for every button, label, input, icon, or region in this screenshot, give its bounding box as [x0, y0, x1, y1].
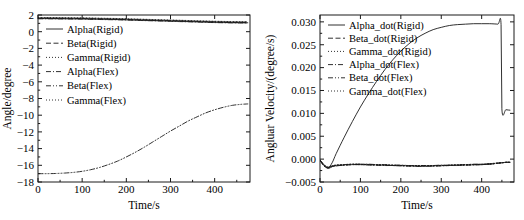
legend: Alpha_dot(Rigid)Beta_dot(Rigid)Gamma_dot…: [328, 20, 432, 98]
series-line-gamma-dotflex: [320, 161, 510, 168]
legend-label-1: Alpha(Rigid): [67, 24, 123, 36]
y-tick-label: 0.025: [291, 39, 316, 51]
series-line-beta-dotflex: [320, 160, 510, 167]
y-tick-label: 0.000: [291, 153, 316, 165]
legend-label-5: Beta_dot(Flex): [349, 72, 413, 84]
y-tick-label: 0.020: [291, 61, 316, 73]
y-tick-label: −4: [22, 59, 34, 71]
legend-label-1: Alpha_dot(Rigid): [349, 20, 424, 32]
y-tick-label: −12: [17, 126, 34, 138]
x-tick-label: 400: [473, 183, 490, 195]
x-tick-label: 100: [352, 183, 369, 195]
legend-label-5: Beta(Flex): [67, 80, 112, 92]
legend-label-3: Gamma(Rigid): [67, 52, 131, 64]
legend-label-2: Beta(Rigid): [67, 38, 117, 50]
y-tick-label: 0: [29, 26, 35, 38]
y-axis-title: Angluar Velocity/(degree/s): [264, 34, 277, 162]
y-tick-label: −2: [22, 42, 34, 54]
y-tick-label: 2: [29, 9, 35, 21]
figure-root: 010020030040020−2−4−6−8−10−12−14−16−18Ti…: [0, 0, 524, 220]
x-tick-label: 200: [393, 183, 410, 195]
x-axis-title: Time/s: [401, 199, 433, 211]
legend-label-6: Gamma(Flex): [67, 95, 126, 107]
angle-chart-svg: 010020030040020−2−4−6−8−10−12−14−16−18Ti…: [0, 0, 262, 220]
x-tick-label: 300: [162, 183, 179, 195]
y-tick-label: −6: [22, 76, 34, 88]
legend-label-3: Gamma_dot(Rigid): [349, 46, 432, 58]
x-tick-label: 300: [433, 183, 450, 195]
x-tick-label: 200: [118, 183, 135, 195]
y-tick-label: 0.030: [291, 16, 316, 28]
series-line-betaflex: [38, 104, 248, 174]
y-tick-label: 0.010: [291, 107, 316, 119]
chart-panel-angle: 010020030040020−2−4−6−8−10−12−14−16−18Ti…: [0, 0, 262, 220]
y-tick-label: −16: [17, 159, 35, 171]
angular-velocity-chart-svg: 01002003004000.0300.0250.0200.0150.0100.…: [262, 0, 524, 220]
legend-label-4: Alpha_dot(Flex): [349, 59, 419, 71]
y-axis-title: Angle/degree: [1, 68, 14, 130]
y-tick-label: −0.005: [285, 176, 316, 188]
x-tick-label: 100: [74, 183, 91, 195]
legend: Alpha(Rigid)Beta(Rigid)Gamma(Rigid)Alpha…: [46, 24, 131, 107]
x-tick-label: 0: [317, 183, 323, 195]
y-tick-label: 0.005: [291, 130, 316, 142]
legend-label-2: Beta_dot(Rigid): [349, 33, 418, 45]
legend-label-4: Alpha(Flex): [67, 66, 119, 78]
x-tick-label: 400: [206, 183, 223, 195]
legend-label-6: Gamma_dot(Flex): [349, 86, 427, 98]
y-tick-label: 0.015: [291, 84, 316, 96]
y-tick-label: −10: [17, 109, 35, 121]
chart-panel-angular-velocity: 01002003004000.0300.0250.0200.0150.0100.…: [262, 0, 524, 220]
y-tick-label: −18: [17, 176, 35, 188]
x-tick-label: 0: [35, 183, 41, 195]
y-tick-label: −14: [17, 142, 35, 154]
y-tick-label: −8: [22, 92, 34, 104]
x-axis-title: Time/s: [128, 199, 160, 211]
